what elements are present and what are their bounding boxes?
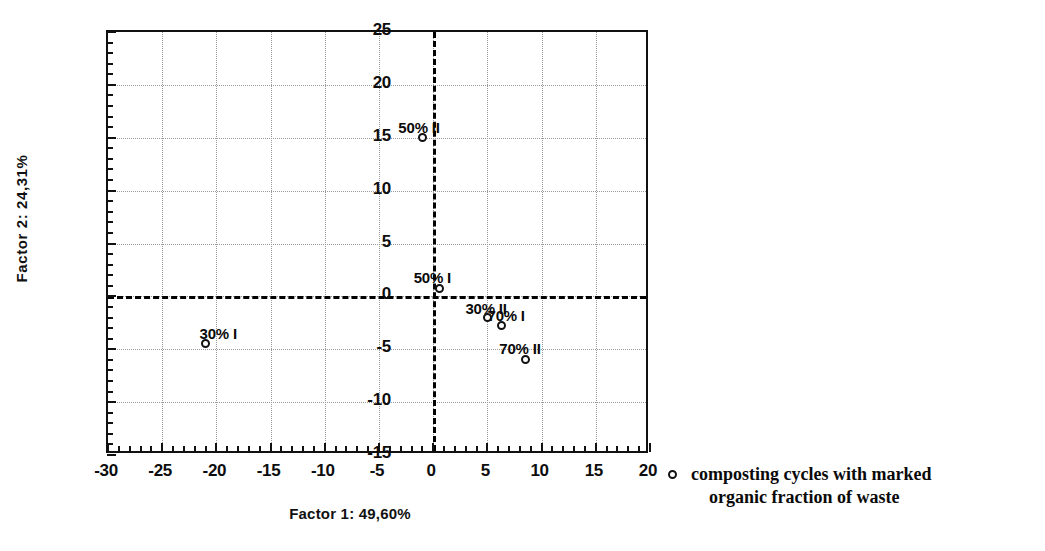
x-tick-minor xyxy=(616,446,618,452)
x-tick-major xyxy=(541,443,543,452)
y-tick-minor xyxy=(107,369,113,371)
x-tick-label: 0 xyxy=(406,461,456,481)
x-tick-minor xyxy=(205,446,207,452)
y-tick-major xyxy=(107,31,116,33)
x-tick-major xyxy=(486,443,488,452)
y-tick-label: 0 xyxy=(345,284,391,304)
y-tick-minor xyxy=(107,158,113,160)
x-tick-minor xyxy=(584,446,586,452)
x-tick-minor xyxy=(237,446,239,452)
y-tick-label: -10 xyxy=(345,390,391,410)
y-tick-minor xyxy=(107,433,113,435)
x-tick-label: -5 xyxy=(352,461,402,481)
x-tick-minor xyxy=(150,446,152,452)
x-tick-minor xyxy=(400,446,402,452)
x-tick-minor xyxy=(551,446,553,452)
y-tick-minor xyxy=(107,116,113,118)
x-tick-minor xyxy=(508,446,510,452)
x-tick-minor xyxy=(118,446,120,452)
y-tick-minor xyxy=(107,168,113,170)
x-tick-major xyxy=(432,443,434,452)
y-tick-label: 25 xyxy=(345,20,391,40)
x-tick-minor xyxy=(194,446,196,452)
zero-line-vertical xyxy=(433,32,436,451)
legend-label: composting cycles with marked organic fr… xyxy=(691,463,931,509)
y-tick-minor xyxy=(107,147,113,149)
gridline-vertical xyxy=(216,32,217,451)
y-tick-minor xyxy=(107,274,113,276)
y-tick-minor xyxy=(107,94,113,96)
y-tick-minor xyxy=(107,359,113,361)
x-tick-major xyxy=(649,443,651,452)
x-tick-minor xyxy=(627,446,629,452)
x-tick-minor xyxy=(562,446,564,452)
x-tick-major xyxy=(215,443,217,452)
gridline-vertical xyxy=(542,32,543,451)
gridline-vertical xyxy=(325,32,326,451)
y-tick-minor xyxy=(107,73,113,75)
y-tick-minor xyxy=(107,264,113,266)
x-tick-minor xyxy=(226,446,228,452)
x-tick-label: 15 xyxy=(569,461,619,481)
x-tick-minor xyxy=(140,446,142,452)
x-tick-label: 10 xyxy=(515,461,565,481)
x-tick-minor xyxy=(638,446,640,452)
x-tick-label: -15 xyxy=(244,461,294,481)
data-point-label: 70% II xyxy=(499,340,540,357)
y-tick-minor xyxy=(107,211,113,213)
x-tick-minor xyxy=(606,446,608,452)
x-tick-minor xyxy=(454,446,456,452)
y-tick-major xyxy=(107,401,116,403)
y-tick-minor xyxy=(107,380,113,382)
y-tick-label: 20 xyxy=(345,73,391,93)
legend-marker-open-circle-icon xyxy=(668,470,677,479)
y-tick-minor xyxy=(107,179,113,181)
x-tick-minor xyxy=(573,446,575,452)
x-tick-minor xyxy=(443,446,445,452)
x-tick-minor xyxy=(313,446,315,452)
gridline-vertical xyxy=(162,32,163,451)
y-tick-minor xyxy=(107,285,113,287)
x-tick-minor xyxy=(302,446,304,452)
data-point-label: 50% II xyxy=(398,119,439,136)
x-tick-minor xyxy=(248,446,250,452)
x-tick-minor xyxy=(291,446,293,452)
y-tick-minor xyxy=(107,221,113,223)
data-point-label: 50% I xyxy=(414,269,451,286)
y-tick-major xyxy=(107,243,116,245)
x-tick-label: -20 xyxy=(189,461,239,481)
data-point-label: 70% I xyxy=(487,307,524,324)
x-tick-minor xyxy=(280,446,282,452)
y-tick-major xyxy=(107,190,116,192)
y-tick-major xyxy=(107,84,116,86)
y-tick-major xyxy=(107,295,116,297)
x-tick-minor xyxy=(172,446,174,452)
x-tick-label: -30 xyxy=(81,461,131,481)
x-tick-minor xyxy=(476,446,478,452)
x-tick-minor xyxy=(530,446,532,452)
chart-canvas: 30% I50% II50% I30% II70% I70% II -15-10… xyxy=(0,0,1045,551)
y-tick-minor xyxy=(107,63,113,65)
x-tick-minor xyxy=(421,446,423,452)
x-tick-minor xyxy=(497,446,499,452)
y-tick-minor xyxy=(107,253,113,255)
gridline-vertical xyxy=(271,32,272,451)
y-tick-minor xyxy=(107,52,113,54)
y-tick-major xyxy=(107,454,116,456)
y-tick-minor xyxy=(107,105,113,107)
y-tick-major xyxy=(107,348,116,350)
y-tick-label: -5 xyxy=(345,337,391,357)
x-tick-major xyxy=(161,443,163,452)
y-tick-minor xyxy=(107,327,113,329)
y-tick-minor xyxy=(107,232,113,234)
x-tick-minor xyxy=(465,446,467,452)
y-tick-label: 15 xyxy=(345,126,391,146)
legend-label-line-2: organic fraction of waste xyxy=(691,486,931,509)
y-tick-minor xyxy=(107,391,113,393)
y-tick-minor xyxy=(107,422,113,424)
x-tick-minor xyxy=(519,446,521,452)
y-tick-label: 5 xyxy=(345,232,391,252)
y-tick-major xyxy=(107,137,116,139)
gridline-vertical xyxy=(487,32,488,451)
y-tick-minor xyxy=(107,306,113,308)
